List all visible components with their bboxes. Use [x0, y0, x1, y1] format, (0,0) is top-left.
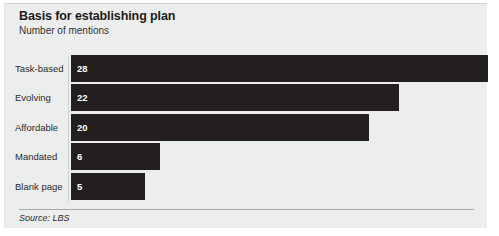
bar-value-label: 6 — [77, 143, 82, 170]
bar-row: Affordable20 — [5, 114, 488, 141]
bar-value-label: 5 — [77, 173, 82, 200]
bar-category-label: Blank page — [15, 173, 67, 200]
bar: 6 — [71, 143, 160, 170]
chart-panel: Basis for establishing plan Number of me… — [4, 3, 487, 228]
bar-value-label: 28 — [77, 55, 88, 82]
bar-category-label: Evolving — [15, 84, 67, 111]
bar: 22 — [71, 84, 399, 111]
page-title: Basis for establishing plan — [19, 9, 459, 24]
chart-figure: Basis for establishing plan Number of me… — [0, 0, 499, 236]
bar-row: Blank page5 — [5, 173, 488, 200]
bar-category-label: Task-based — [15, 55, 67, 82]
bar: 5 — [71, 173, 145, 200]
bar: 20 — [71, 114, 369, 141]
bar-row: Task-based28 — [5, 55, 488, 82]
bar: 28 — [71, 55, 488, 82]
bar-category-label: Affordable — [15, 114, 67, 141]
chart-header: Basis for establishing plan Number of me… — [19, 9, 459, 37]
footer-divider — [19, 209, 474, 210]
source-note: Source: LBS — [19, 213, 70, 223]
bar-value-label: 20 — [77, 114, 88, 141]
chart-subtitle: Number of mentions — [19, 24, 459, 37]
bar-chart-plot-area: Task-based28Evolving22Affordable20Mandat… — [5, 55, 488, 205]
bar-row: Evolving22 — [5, 84, 488, 111]
bar-row: Mandated6 — [5, 143, 488, 170]
bar-category-label: Mandated — [15, 143, 67, 170]
bar-value-label: 22 — [77, 84, 88, 111]
